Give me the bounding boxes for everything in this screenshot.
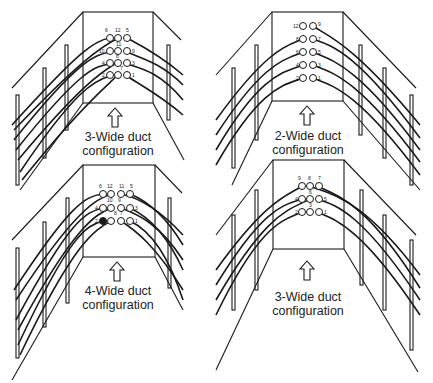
caption-subtitle: configuration [243,143,373,157]
svg-text:7: 7 [120,65,123,71]
panel-bottom-right-structure [216,160,418,372]
svg-text:5: 5 [324,196,327,202]
svg-text:1: 1 [318,75,321,81]
svg-text:10: 10 [107,197,113,203]
svg-text:9: 9 [118,197,121,203]
svg-text:12: 12 [107,183,113,189]
caption-title: 4-Wide duct [53,284,183,298]
caption-title: 3-Wide duct [243,290,373,304]
svg-text:8: 8 [308,175,311,181]
panel-bottom-left-cables [14,194,183,355]
svg-text:8: 8 [114,210,117,216]
svg-text:3: 3 [132,60,135,66]
duct-grid-bottom-left [100,191,134,225]
svg-text:3: 3 [135,205,138,211]
svg-text:3: 3 [309,202,312,208]
svg-text:6: 6 [309,189,312,195]
duct-grid-top-right [300,23,317,82]
up-arrow-outline-icon [300,261,314,280]
svg-text:5: 5 [130,183,133,189]
svg-text:2: 2 [102,72,105,78]
caption-bottom-right: 3-Wide duct configuration [243,290,373,318]
caption-subtitle: configuration [243,304,373,318]
svg-text:4: 4 [295,196,298,202]
caption-subtitle: configuration [53,144,183,158]
svg-text:3: 3 [318,62,321,68]
caption-title: 3-Wide duct [53,130,183,144]
svg-text:8: 8 [116,53,119,59]
svg-text:6: 6 [99,183,102,189]
svg-text:7: 7 [318,175,321,181]
up-arrow-outline-icon [108,108,122,127]
svg-text:10: 10 [99,48,105,54]
caption-subtitle: configuration [53,298,183,312]
svg-text:12: 12 [115,27,121,33]
svg-text:8: 8 [296,36,299,42]
svg-text:5: 5 [126,27,129,33]
panel-top-left-structure [12,12,184,190]
svg-text:11: 11 [116,41,121,47]
up-arrow-outline-icon [300,106,314,125]
svg-text:2: 2 [95,218,98,224]
svg-text:1: 1 [324,209,327,215]
caption-top-left: 3-Wide duct configuration [53,130,183,158]
svg-text:1: 1 [132,72,135,78]
duct-configuration-diagram: 6 12 5 10 11 9 4 8 3 2 7 1 6 12 11 5 4 1… [0,0,433,383]
caption-top-right: 2-Wide duct configuration [243,129,373,157]
svg-text:11: 11 [119,183,124,189]
svg-text:6: 6 [105,27,108,33]
svg-text:4: 4 [296,62,299,68]
svg-text:7: 7 [318,36,321,42]
caption-title: 2-Wide duct [243,129,373,143]
caption-bottom-left: 4-Wide duct configuration [53,284,183,312]
panel-top-left-cables [12,38,183,180]
svg-text:9: 9 [132,48,135,54]
svg-text:5: 5 [318,49,321,55]
svg-text:6: 6 [296,49,299,55]
svg-text:4: 4 [95,205,98,211]
svg-text:2: 2 [295,209,298,215]
panel-bottom-left-structure [12,165,183,380]
svg-text:2: 2 [296,75,299,81]
svg-text:4: 4 [102,60,105,66]
svg-text:7: 7 [120,210,123,216]
svg-text:1: 1 [135,218,138,224]
up-arrow-outline-icon [110,262,124,281]
svg-text:9: 9 [318,21,321,27]
svg-text:12: 12 [293,23,299,29]
svg-text:9: 9 [298,175,301,181]
duct-grid-bottom-right [299,183,323,216]
